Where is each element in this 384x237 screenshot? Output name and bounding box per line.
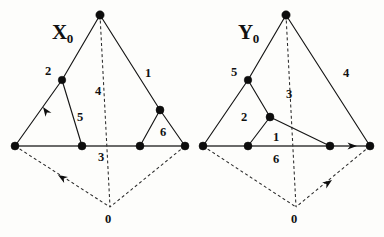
panel-y0-vertex-label-0: 0 <box>291 213 297 226</box>
dashed-right-base-to-vertex0 <box>296 146 370 207</box>
panel-y0-name-subscript: 0 <box>253 31 260 46</box>
edge-upper-right-to-inner-right <box>140 110 160 146</box>
panel-x0-name-subscript: 0 <box>67 31 74 46</box>
mid-inner-vertex <box>266 113 274 121</box>
upper-left-vertex <box>58 76 66 84</box>
panel-x0-name-base: X <box>52 20 67 44</box>
arrow-up-left-edge <box>40 105 51 117</box>
dashed-edge-group-y0 <box>203 15 370 207</box>
left-base-vertex <box>199 142 207 150</box>
panel-y0-name-label: Y0 <box>238 22 260 43</box>
right-base-vertex <box>181 142 189 150</box>
panel-x0-edge-label-2: 2 <box>45 65 51 78</box>
panel-y0-edge-label-4: 4 <box>343 67 349 80</box>
panel-x0-region-label-5: 5 <box>77 111 83 124</box>
edge-apex-to-upper-right <box>100 15 160 110</box>
panel-y0-name-base: Y <box>238 20 253 44</box>
vertex-group-y0 <box>199 11 374 150</box>
panel-x0-edge-label-4: 4 <box>95 85 101 98</box>
inner-right-vertex <box>136 142 144 150</box>
panel-x0-edge-label-3: 3 <box>98 151 104 164</box>
edge-upper-left-to-left-base <box>15 80 62 146</box>
panel-x0-edge-label-1: 1 <box>145 67 151 80</box>
arrow-dashed-to-right-base <box>322 177 334 188</box>
left-base-vertex <box>11 142 19 150</box>
dashed-right-base-to-vertex0 <box>110 146 185 207</box>
inner-right-vertex <box>326 142 334 150</box>
panel-x0-geometry <box>11 11 189 207</box>
apex-vertex <box>282 11 290 19</box>
dashed-left-base-to-vertex0 <box>203 146 296 207</box>
upper-left-vertex <box>244 76 252 84</box>
panel-y0-edge-label-5: 5 <box>231 66 237 79</box>
panel-x0-region-label-6: 6 <box>160 126 166 139</box>
figure-root: X02145630Y05432160 <box>0 0 384 237</box>
panel-x0-vertex-label-0: 0 <box>105 213 111 226</box>
right-base-vertex <box>366 142 374 150</box>
panel-y0-region-label-1: 1 <box>273 131 279 144</box>
edge-mid-inner-to-inner-left <box>248 117 270 146</box>
panel-y0-edge-label-6: 6 <box>273 153 279 166</box>
dashed-apex-to-vertex0 <box>286 15 296 207</box>
edge-apex-to-right-base <box>286 15 370 146</box>
dashed-apex-to-vertex0 <box>100 15 110 207</box>
inner-left-vertex <box>244 142 252 150</box>
inner-left-vertex <box>78 142 86 150</box>
upper-right-vertex <box>156 106 164 114</box>
panel-y0-edge-label-3: 3 <box>286 88 292 101</box>
panel-x0-name-label: X0 <box>52 22 74 43</box>
panel-y0-region-label-2: 2 <box>241 111 247 124</box>
panel-y0-geometry <box>199 11 374 207</box>
edge-upper-left-to-mid-inner <box>248 80 270 117</box>
apex-vertex <box>96 11 104 19</box>
